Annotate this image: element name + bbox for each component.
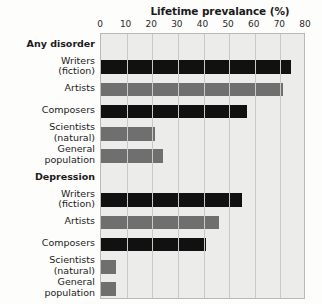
gridline-60 xyxy=(255,34,256,298)
x-tick-0: 0 xyxy=(97,19,103,29)
category-label-writers-fiction: Writers (fiction) xyxy=(58,56,95,77)
bar-general-population-6 xyxy=(101,282,116,296)
bar-writers-fiction-55 xyxy=(101,193,242,207)
gridline-70 xyxy=(280,34,281,298)
bar-row xyxy=(101,105,304,119)
x-tick-70: 70 xyxy=(274,19,285,29)
bar-row xyxy=(101,60,304,74)
bar-row xyxy=(101,260,304,274)
bar-composers-41 xyxy=(101,238,206,252)
category-labels: Any disorderWriters (fiction)ArtistsComp… xyxy=(0,33,98,299)
category-label-scientists-natural: Scientists (natural) xyxy=(49,122,95,143)
category-label-scientists-natural: Scientists (natural) xyxy=(49,255,95,276)
category-label-composers: Composers xyxy=(42,238,95,249)
category-label-artists: Artists xyxy=(65,83,95,94)
x-tick-50: 50 xyxy=(222,19,233,29)
bar-row xyxy=(101,282,304,296)
category-label-depression: Depression xyxy=(35,172,95,183)
bar-chart: Lifetime prevalance (%) 0102030405060708… xyxy=(0,0,322,304)
category-label-general-population: General population xyxy=(44,144,95,165)
bar-writers-fiction-74 xyxy=(101,60,291,74)
gridline-30 xyxy=(178,34,179,298)
category-label-composers: Composers xyxy=(42,105,95,116)
bar-row xyxy=(101,149,304,163)
x-tick-20: 20 xyxy=(146,19,157,29)
gridline-20 xyxy=(152,34,153,298)
bar-row xyxy=(101,216,304,230)
gridline-40 xyxy=(204,34,205,298)
plot-area xyxy=(100,33,305,299)
bar-general-population-24 xyxy=(101,149,163,163)
category-label-artists: Artists xyxy=(65,216,95,227)
x-tick-60: 60 xyxy=(248,19,259,29)
bar-row xyxy=(101,193,304,207)
chart-title: Lifetime prevalance (%) xyxy=(120,5,320,17)
x-tick-40: 40 xyxy=(197,19,208,29)
bar-scientists-natural-21 xyxy=(101,127,155,141)
bar-scientists-natural-6 xyxy=(101,260,116,274)
bar-composers-57 xyxy=(101,105,247,119)
x-tick-80: 80 xyxy=(299,19,310,29)
bar-row xyxy=(101,83,304,97)
bar-row xyxy=(101,238,304,252)
bar-row xyxy=(101,127,304,141)
category-label-general-population: General population xyxy=(44,277,95,298)
x-tick-30: 30 xyxy=(171,19,182,29)
gridline-50 xyxy=(229,34,230,298)
bar-artists-46 xyxy=(101,216,219,230)
category-label-any-disorder: Any disorder xyxy=(27,39,95,50)
x-axis-tick-labels: 01020304050607080 xyxy=(100,19,305,33)
category-label-writers-fiction: Writers (fiction) xyxy=(58,189,95,210)
x-tick-10: 10 xyxy=(120,19,131,29)
bar-rows xyxy=(101,34,304,298)
gridline-10 xyxy=(127,34,128,298)
